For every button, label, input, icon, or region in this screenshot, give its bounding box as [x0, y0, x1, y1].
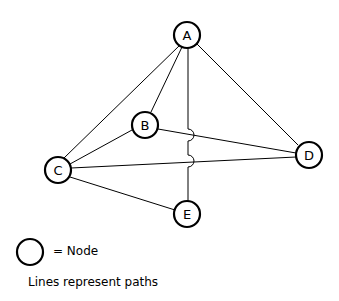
- node-c-label: C: [53, 163, 62, 178]
- edge-a-b: [151, 47, 182, 112]
- legend-caption: Lines represent paths: [28, 275, 158, 289]
- node-b: B: [132, 112, 158, 138]
- node-c: C: [45, 157, 71, 183]
- edge-a-e: [188, 48, 194, 201]
- nodes: A B C D E: [45, 22, 322, 227]
- node-a: A: [174, 22, 200, 48]
- node-d: D: [296, 142, 322, 168]
- legend-node-symbol: [17, 239, 43, 265]
- edges: [64, 44, 298, 210]
- edge-b-d: [158, 129, 296, 153]
- node-a-label: A: [183, 28, 192, 43]
- node-e-label: E: [183, 207, 191, 222]
- network-diagram: A B C D E: [0, 0, 339, 301]
- node-b-label: B: [141, 118, 150, 133]
- edge-c-d: [71, 157, 296, 168]
- node-d-label: D: [304, 148, 314, 163]
- edge-a-c: [64, 45, 180, 158]
- legend-node-label: = Node: [53, 244, 98, 258]
- edge-b-c: [70, 130, 132, 164]
- node-e: E: [174, 201, 200, 227]
- edge-a-d: [197, 44, 298, 145]
- edge-c-e: [70, 177, 175, 210]
